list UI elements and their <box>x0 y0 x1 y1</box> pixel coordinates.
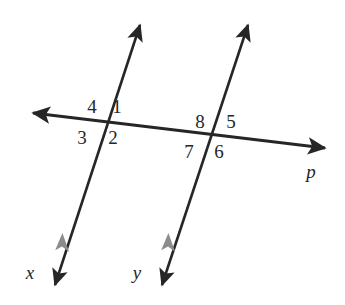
angle-label-6: 6 <box>214 142 224 161</box>
angle-label-4: 4 <box>87 97 97 116</box>
line-label-p: p <box>306 162 316 181</box>
parallel-tick-icon-y <box>161 233 175 252</box>
parallel-tick-icon-x <box>55 233 69 252</box>
line-label-x: x <box>26 263 34 282</box>
line-group-y <box>161 25 248 285</box>
angle-label-3: 3 <box>77 128 87 147</box>
angle-label-2: 2 <box>108 128 118 147</box>
line-group-x <box>55 25 140 285</box>
angle-label-7: 7 <box>184 142 194 161</box>
line-label-y: y <box>133 263 141 282</box>
line-x-stroke <box>55 25 140 285</box>
angle-label-1: 1 <box>112 97 122 116</box>
geometry-canvas <box>0 0 345 305</box>
angle-label-5: 5 <box>226 112 236 131</box>
geometry-diagram: 4 1 3 2 8 5 7 6 x y p <box>0 0 345 305</box>
line-y-stroke <box>162 25 248 285</box>
angle-label-8: 8 <box>195 112 205 131</box>
